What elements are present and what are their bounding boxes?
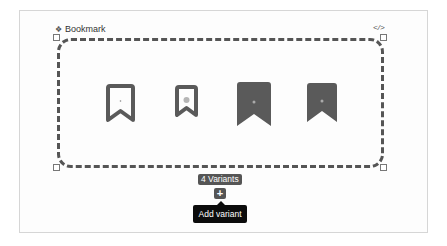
bookmark-outline-icon[interactable] bbox=[105, 84, 136, 123]
variants-count-badge: 4 Variants bbox=[198, 174, 242, 185]
add-variant-tooltip: Add variant bbox=[193, 205, 247, 223]
component-set-label[interactable]: ❖ Bookmark bbox=[55, 24, 106, 34]
component-set-name: Bookmark bbox=[65, 24, 106, 34]
bookmark-filled-icon[interactable] bbox=[237, 82, 271, 127]
resize-handle-top-right[interactable] bbox=[380, 34, 387, 41]
resize-handle-top-left[interactable] bbox=[53, 34, 60, 41]
bookmark-outline-icon[interactable] bbox=[174, 85, 199, 118]
component-set-icon: ❖ bbox=[55, 25, 62, 34]
add-variant-button[interactable]: + bbox=[214, 188, 226, 199]
resize-handle-bottom-right[interactable] bbox=[380, 164, 387, 171]
bookmark-filled-icon[interactable] bbox=[307, 83, 337, 123]
resize-handle-bottom-left[interactable] bbox=[53, 164, 60, 171]
code-icon[interactable]: </> bbox=[373, 23, 385, 32]
